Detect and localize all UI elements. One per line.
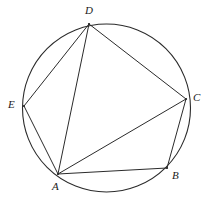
circle-layer (23, 24, 191, 192)
chord-dc (89, 24, 186, 99)
chord-layer (24, 24, 186, 174)
chord-bc (167, 99, 186, 168)
vertex-label-e: E (8, 99, 15, 110)
vertex-point-e (23, 105, 25, 107)
vertex-label-c: C (193, 92, 200, 103)
circumscribed-circle (23, 24, 191, 192)
vertex-label-b: B (172, 170, 179, 181)
vertex-label-d: D (85, 5, 93, 16)
vertex-label-a: A (52, 181, 59, 192)
chord-da (58, 24, 89, 174)
geometry-canvas (0, 0, 213, 211)
geometry-figure: ABCDE (0, 0, 213, 211)
vertex-point-d (88, 23, 90, 25)
vertex-point-c (185, 98, 187, 100)
chord-ac (58, 99, 186, 174)
chord-ab (58, 168, 167, 174)
vertex-point-a (57, 173, 59, 175)
vertex-point-b (166, 167, 168, 169)
